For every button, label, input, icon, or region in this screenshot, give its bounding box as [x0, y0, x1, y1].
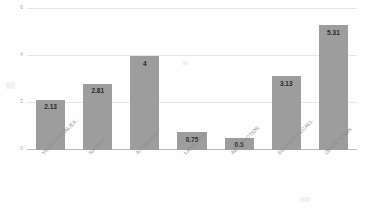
bar-slot: 5.31 — [319, 9, 348, 150]
bar-slot: 2.81 — [83, 9, 112, 150]
bar-value-label: 3.13 — [280, 81, 293, 88]
category-axis-labels: VISUOSPATIAL/EX..NAMINGATTENTIONLANGUAGE… — [27, 152, 357, 213]
bar-chart-figure: 0246 2.132.8140.750.53.135.31 VISUOSPATI… — [0, 0, 365, 213]
bar-value-label: 4 — [143, 61, 147, 68]
bar-value-label: 2.81 — [91, 88, 104, 95]
bar-slot: 0.5 — [225, 9, 254, 150]
y-tick-label: 6 — [20, 5, 23, 11]
bar-value-label: 5.31 — [327, 30, 340, 37]
bar-value-label: 2.13 — [44, 104, 57, 111]
bar-slot: 3.13 — [272, 9, 301, 150]
y-tick-label: 4 — [20, 52, 23, 58]
bar-slot: 0.75 — [177, 9, 206, 150]
y-tick-label: 0 — [20, 146, 23, 152]
y-tick-label: 2 — [20, 99, 23, 105]
